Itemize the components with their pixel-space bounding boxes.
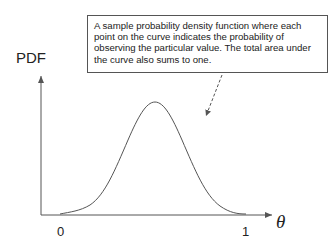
x-axis-label: θ xyxy=(276,211,285,233)
callout-arrow xyxy=(206,75,222,116)
pdf-curve xyxy=(60,102,246,214)
x-tick-1: 1 xyxy=(242,224,249,239)
y-axis-label: PDF xyxy=(16,49,46,66)
x-tick-0: 0 xyxy=(57,224,64,239)
callout-box: A sample probability density function wh… xyxy=(87,15,328,73)
